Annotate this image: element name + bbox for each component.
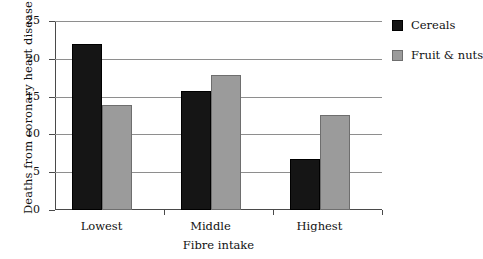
y-axis-tick-label: 20: [26, 52, 40, 65]
y-axis-tick-label: 0: [33, 203, 40, 216]
y-axis-tick: 0: [49, 210, 55, 211]
y-axis-tick: 5: [49, 172, 55, 173]
x-axis-category-label: Lowest: [81, 219, 123, 233]
legend-item[interactable]: Fruit & nuts: [392, 45, 483, 65]
y-axis-tick-label: 15: [26, 90, 40, 103]
gridline: [55, 21, 382, 22]
y-axis-tick: 10: [49, 134, 55, 135]
legend-label: Cereals: [411, 18, 455, 32]
legend-label: Fruit & nuts: [411, 48, 483, 62]
bar: [320, 115, 350, 210]
bar: [211, 75, 241, 210]
bar: [102, 105, 132, 210]
bar: [290, 159, 320, 210]
y-axis-tick: 25: [49, 21, 55, 22]
chart-legend: CerealsFruit & nuts: [392, 15, 483, 75]
legend-swatch-icon: [392, 50, 403, 61]
x-axis-title: Fibre intake: [55, 238, 382, 252]
bar: [181, 91, 211, 210]
gridline: [55, 59, 382, 60]
plot-area: 0510152025: [55, 21, 382, 210]
y-axis-tick-label: 10: [26, 127, 40, 140]
legend-swatch-icon: [392, 20, 403, 31]
y-axis-tick: 15: [49, 97, 55, 98]
x-axis-tick: [164, 210, 165, 215]
y-axis-tick-label: 25: [26, 14, 40, 27]
x-axis-category-label: Highest: [297, 219, 343, 233]
bar: [72, 44, 102, 210]
x-axis-tick: [382, 210, 383, 215]
x-axis-tick: [273, 210, 274, 215]
y-axis-tick-label: 5: [33, 165, 40, 178]
legend-item[interactable]: Cereals: [392, 15, 483, 35]
y-axis-title: Deaths from coronary heart disease: [21, 14, 35, 214]
x-axis-category-label: Middle: [190, 219, 231, 233]
y-axis-tick: 20: [49, 59, 55, 60]
